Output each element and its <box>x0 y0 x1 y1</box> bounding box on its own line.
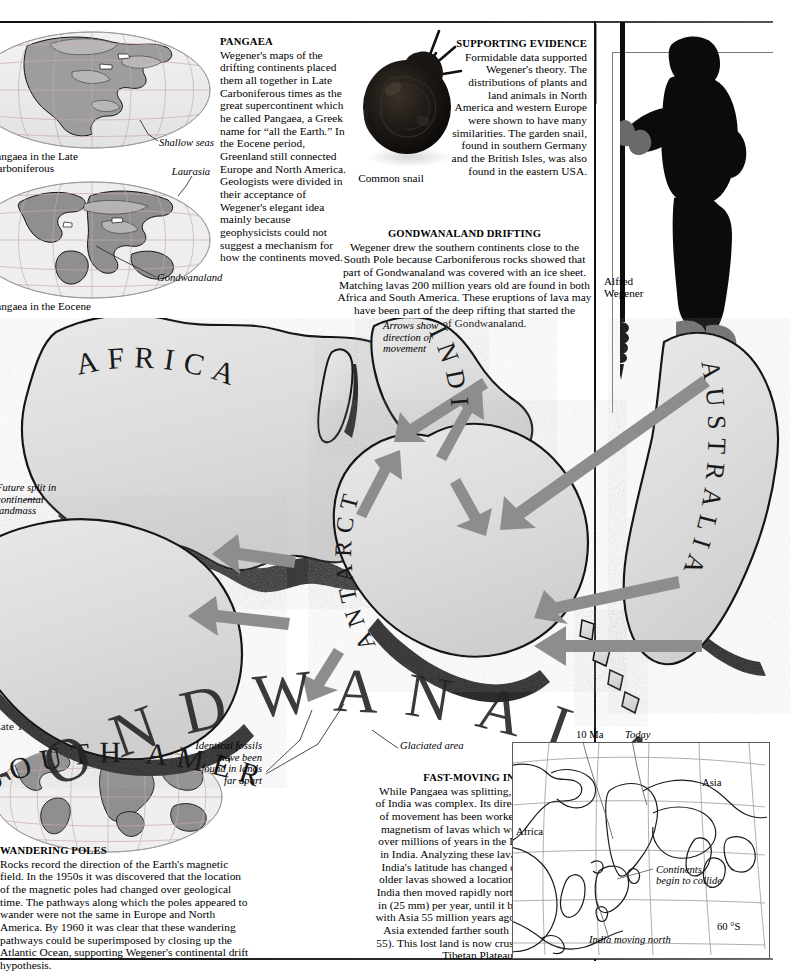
globe-late-carboniferous-label: Pangaea in the Late Carboniferous <box>0 150 110 175</box>
article-supporting-evidence: SUPPORTING EVIDENCE Formidable data supp… <box>447 38 587 177</box>
inset-label-india-moving-north: India moving north <box>589 934 671 945</box>
inset-label-60s: 60 °S <box>717 921 740 932</box>
article-gondwanaland-drifting-body: Wegener drew the southern continents clo… <box>337 241 592 330</box>
vertical-rule-secondary <box>596 24 597 104</box>
callout-future-split: Future split in continental landmass <box>0 482 66 517</box>
article-wandering-poles-heading: WANDERING POLES <box>0 845 252 858</box>
callout-shallow-seas: Shallow seas <box>158 137 214 149</box>
inset-label-today: Today <box>625 729 651 740</box>
callout-identical-fossils: Identical fossils have been found in lan… <box>193 740 262 786</box>
common-snail-label: Common snail <box>358 172 424 184</box>
callout-gondwanaland: Gondwanaland <box>157 272 239 284</box>
globe-late-carboniferous <box>0 28 212 152</box>
article-gondwanaland-drifting-heading: GONDWANALAND DRIFTING <box>337 228 592 241</box>
inset-label-10ma: 10 Ma <box>576 729 603 740</box>
article-pangaea-heading: PANGAEA <box>220 36 348 49</box>
callout-glaciated-area: Glaciated area <box>400 740 466 752</box>
article-supporting-evidence-body: Formidable data supported Wegener's theo… <box>447 51 587 178</box>
inset-label-asia: Asia <box>702 777 721 788</box>
inset-label-africa: Africa <box>516 826 543 837</box>
callout-laurasia: Laurasia <box>160 166 222 178</box>
callout-arrows-show: Arrows show direction of movement <box>383 320 455 355</box>
gondwana-reconstruction-map: AFRICA SOUTH AMERICA INDIA ANTARCTICA AU… <box>0 318 790 788</box>
article-pangaea: PANGAEA Wegener's maps of the drifting c… <box>220 36 348 264</box>
article-pangaea-body: Wegener's maps of the drifting continent… <box>220 49 348 264</box>
inset-label-continents-collide: Continents begin to collide <box>656 864 726 887</box>
globe-eocene-label: Pangaea in the Eocene <box>0 300 120 312</box>
alfred-wegener-label: Alfred Wegener <box>604 275 664 300</box>
article-wandering-poles-body: Rocks record the direction of the Earth'… <box>0 858 252 972</box>
article-gondwanaland-drifting: GONDWANALAND DRIFTING Wegener drew the s… <box>337 228 592 329</box>
article-wandering-poles: WANDERING POLES Rocks record the directi… <box>0 845 252 972</box>
article-supporting-evidence-heading: SUPPORTING EVIDENCE <box>447 38 587 51</box>
